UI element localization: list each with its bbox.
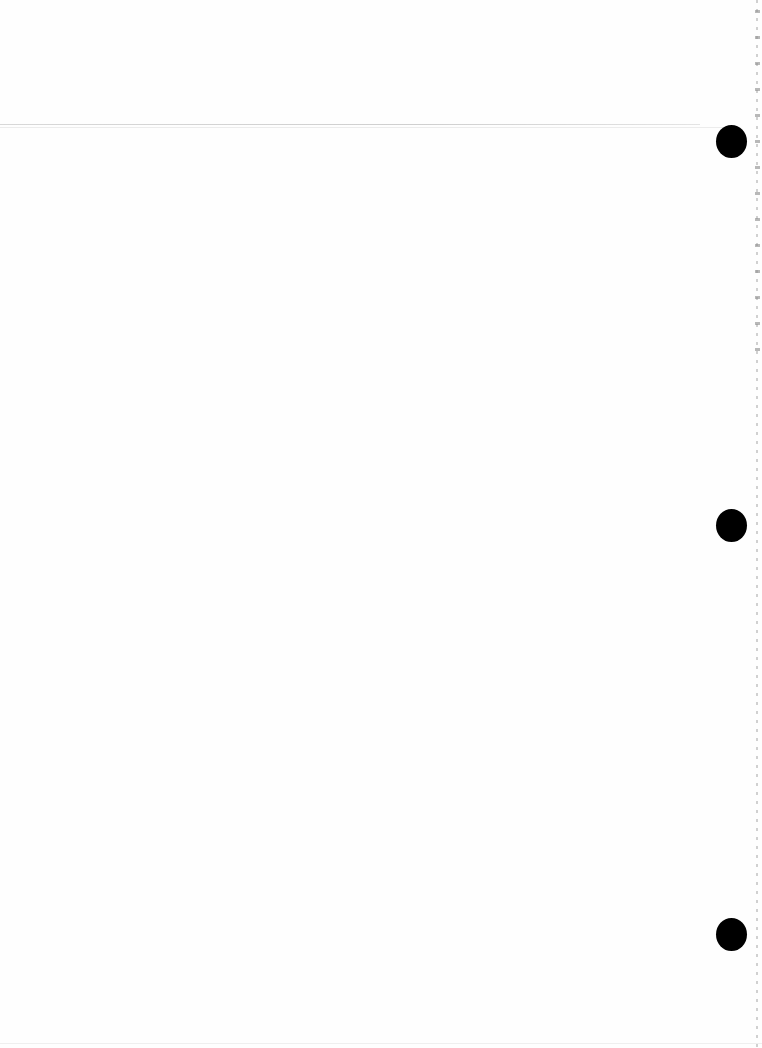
page-bottom-edge bbox=[0, 1043, 762, 1044]
punch-hole-middle bbox=[716, 509, 747, 542]
scanned-page bbox=[0, 0, 762, 1048]
punch-hole-bottom bbox=[716, 918, 747, 951]
horizontal-rule bbox=[0, 124, 700, 125]
scan-edge-marks bbox=[755, 0, 760, 360]
horizontal-rule-shadow bbox=[0, 127, 740, 128]
punch-hole-top bbox=[716, 125, 747, 158]
